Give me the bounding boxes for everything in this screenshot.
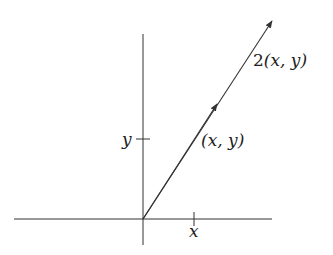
vector-arrow: [143, 104, 217, 219]
x-tick-label: x: [189, 221, 199, 241]
vector-scaling-diagram: 2(x, y) (x, y) y x: [0, 0, 333, 255]
vector-label: (x, y): [201, 130, 244, 150]
y-tick-label: y: [121, 129, 132, 149]
scaled-vector-label: 2(x, y): [253, 50, 307, 70]
